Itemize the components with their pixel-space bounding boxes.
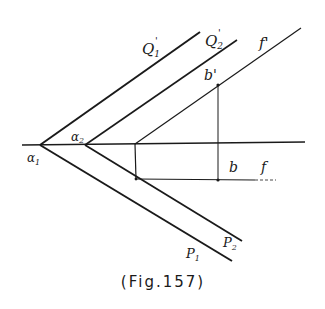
label-alpha2: α2: [71, 130, 84, 145]
point-f-intersection: [135, 178, 138, 181]
projector-f: [135, 144, 136, 179]
line-f: [136, 179, 255, 180]
label-b-prime: b': [204, 67, 217, 83]
figure-caption: (Fig.157): [121, 273, 205, 291]
descriptive-geometry-diagram: Q1' Q2' f' b' b f α1 α2 P2 P1 (Fig.157): [0, 0, 325, 309]
label-b: b: [229, 159, 238, 175]
label-P1: P1: [185, 246, 200, 263]
trace-Q2-prime: [85, 40, 237, 145]
label-Q2-prime: Q2': [205, 27, 223, 51]
ground-line: [22, 142, 305, 145]
trace-Q1-prime: [40, 32, 200, 145]
label-P2: P2: [222, 235, 237, 252]
label-f: f: [260, 159, 269, 175]
label-alpha1: α1: [27, 151, 40, 167]
point-b: [216, 178, 219, 181]
label-f-prime: f': [258, 34, 269, 52]
label-Q1-prime: Q1': [142, 35, 160, 59]
point-b-prime: [216, 83, 219, 86]
